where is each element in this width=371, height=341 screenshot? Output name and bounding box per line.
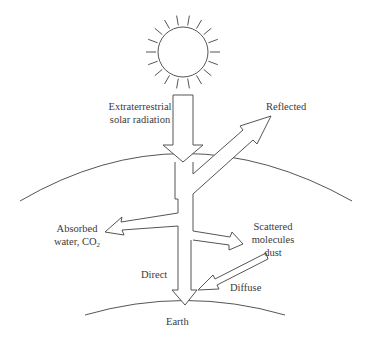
extraterrestrial-label: Extraterrestrial solar radiation (100, 100, 180, 126)
reflected-arrow (193, 116, 271, 194)
absorbed-label-line2: water, CO2 (50, 235, 104, 252)
sun-ray (208, 61, 217, 64)
sun-ray (204, 69, 212, 75)
sun-ray (148, 61, 157, 64)
extraterrestrial-label-line2: solar radiation (100, 113, 180, 126)
sun-ray (165, 75, 170, 84)
diffuse-label: Diffuse (230, 281, 261, 294)
atmosphere-curve (20, 154, 352, 202)
scattered-label: Scattered molecules dust (243, 220, 303, 259)
sun-icon (146, 16, 220, 89)
scattered-label-line1: Scattered (243, 220, 303, 233)
absorbed-label-subscript: 2 (97, 241, 101, 249)
sun-ray (177, 79, 179, 89)
sun-ray (165, 20, 170, 29)
sun-ray (208, 39, 217, 43)
atmosphere-trunk (175, 162, 178, 213)
sun-ray (197, 75, 202, 84)
earth-label: Earth (166, 315, 189, 328)
sun-ray (188, 79, 190, 89)
sun-ray (177, 16, 179, 26)
absorbed-label-text: water, CO (54, 236, 97, 247)
direct-label: Direct (141, 268, 167, 281)
sun-ray (155, 28, 163, 34)
absorbed-arrow (105, 213, 178, 235)
scattered-label-line2: molecules (243, 233, 303, 246)
sun-ray (155, 69, 163, 75)
extraterrestrial-label-line1: Extraterrestrial (100, 100, 180, 113)
scattered-arrow (193, 231, 243, 250)
absorbed-label: Absorbed water, CO2 (50, 222, 104, 252)
diagram-canvas (0, 0, 371, 341)
reflected-label: Reflected (266, 100, 306, 113)
sun-ray (188, 16, 190, 26)
sun-ray (204, 28, 212, 34)
scattered-label-line3: dust (243, 246, 303, 259)
absorbed-label-line1: Absorbed (50, 222, 104, 235)
sun-ray (197, 20, 202, 29)
sun-ray (148, 39, 157, 43)
